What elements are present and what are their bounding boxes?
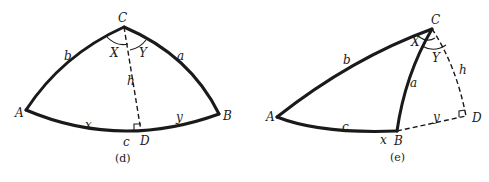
angle-label-Y: Y (432, 51, 441, 65)
vertex-label-C: C (431, 13, 440, 27)
side-c-arc (277, 117, 397, 131)
side-a-arc (124, 27, 219, 114)
vertex-label-D: D (471, 111, 482, 125)
extension-y-dashed (397, 116, 466, 131)
figure-d: C A B D b a c h x y X Y (d) (14, 11, 232, 165)
angle-label-Y: Y (139, 46, 148, 60)
side-label-h: h (127, 74, 135, 88)
side-label-c: c (123, 135, 130, 149)
segment-label-y: y (175, 110, 183, 124)
vertex-label-D: D (139, 134, 150, 148)
segment-label-x: x (380, 133, 387, 147)
vertex-label-B: B (393, 134, 403, 148)
side-label-a: a (410, 76, 417, 90)
side-label-c: c (342, 120, 349, 134)
segment-label-x: x (85, 118, 92, 132)
caption-e-text: (e) (390, 151, 405, 164)
angle-label-X: X (109, 46, 119, 60)
vertex-label-A: A (265, 110, 275, 124)
side-b-arc (277, 29, 432, 117)
vertex-label-B: B (222, 109, 232, 123)
caption-d-text: (d) (115, 152, 131, 165)
caption-e: (e) (390, 151, 405, 164)
side-label-a: a (177, 49, 184, 63)
vertex-label-C: C (118, 11, 127, 25)
side-label-b: b (64, 49, 72, 63)
angle-arc-X (106, 36, 128, 45)
angle-label-X: X (410, 35, 420, 49)
caption-d: (d) (115, 152, 131, 165)
vertex-label-A: A (14, 106, 24, 120)
figure-e: C A B D b a c h x y X Y (e) (265, 13, 482, 164)
segment-label-y: y (432, 110, 440, 124)
diagram-canvas: C A B D b a c h x y X Y (d) C A B D (0, 0, 489, 182)
side-label-h: h (459, 63, 467, 77)
side-c-arc (26, 110, 219, 131)
side-label-b: b (343, 53, 351, 67)
